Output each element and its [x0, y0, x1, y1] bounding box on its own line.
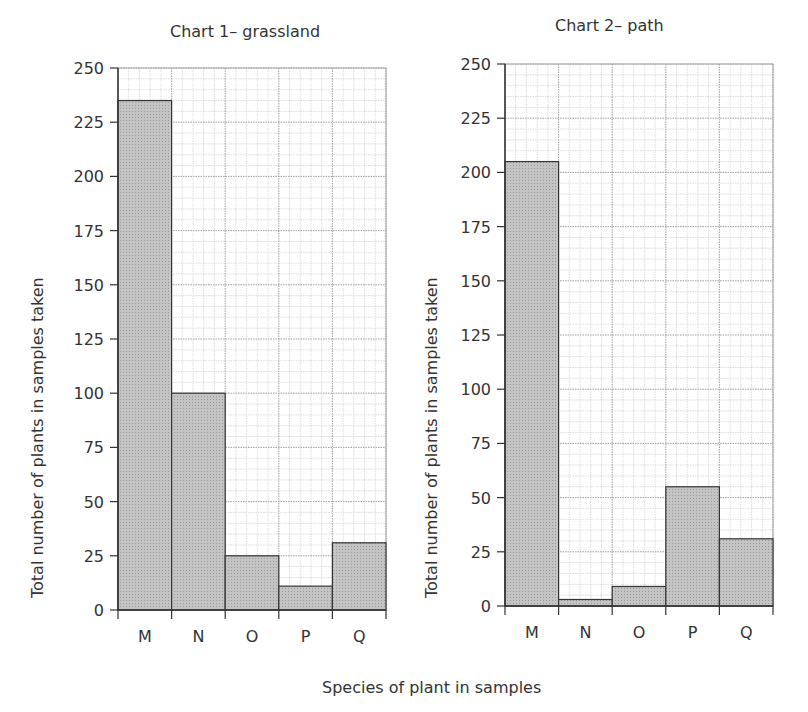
y-tick-label: 125: [460, 326, 491, 345]
bar-Q: [719, 539, 773, 606]
y-tick-label: 50: [84, 493, 104, 512]
y-tick-label: 150: [73, 276, 104, 295]
y-tick-label: 225: [73, 113, 104, 132]
bar-M: [118, 101, 172, 610]
x-tick-label: M: [138, 627, 152, 646]
bar-M: [505, 162, 559, 606]
x-tick-label: O: [246, 627, 259, 646]
y-tick-label: 100: [73, 384, 104, 403]
x-tick-label: P: [688, 623, 698, 642]
chart-1: MNOPQ0255075100125150175200225250: [73, 59, 386, 646]
bar-O: [225, 556, 279, 610]
y-tick-label: 0: [94, 601, 104, 620]
y-tick-label: 175: [460, 218, 491, 237]
bar-N: [559, 599, 613, 606]
y-tick-label: 25: [84, 547, 104, 566]
y-tick-label: 100: [460, 380, 491, 399]
chart-2: MNOPQ0255075100125150175200225250: [460, 55, 773, 642]
y-tick-label: 200: [460, 163, 491, 182]
y-tick-label: 0: [481, 597, 491, 616]
bar-charts: MNOPQ0255075100125150175200225250MNOPQ02…: [0, 0, 808, 712]
x-tick-label: N: [579, 623, 591, 642]
x-tick-label: Q: [740, 623, 753, 642]
x-tick-label: O: [633, 623, 646, 642]
bar-P: [666, 487, 720, 606]
y-tick-label: 75: [471, 434, 491, 453]
x-tick-label: M: [525, 623, 539, 642]
y-tick-label: 250: [73, 59, 104, 78]
y-tick-label: 125: [73, 330, 104, 349]
y-tick-label: 75: [84, 438, 104, 457]
x-tick-label: Q: [353, 627, 366, 646]
y-tick-label: 150: [460, 272, 491, 291]
x-tick-label: P: [301, 627, 311, 646]
y-tick-label: 50: [471, 489, 491, 508]
bar-P: [279, 586, 333, 610]
y-tick-label: 200: [73, 167, 104, 186]
bar-O: [612, 586, 666, 606]
y-tick-label: 25: [471, 543, 491, 562]
x-tick-label: N: [192, 627, 204, 646]
bar-N: [172, 393, 226, 610]
bar-Q: [332, 543, 386, 610]
y-tick-label: 175: [73, 222, 104, 241]
y-tick-label: 250: [460, 55, 491, 74]
y-tick-label: 225: [460, 109, 491, 128]
